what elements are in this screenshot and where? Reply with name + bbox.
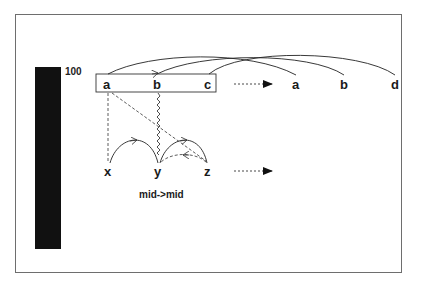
output-node-d: d	[391, 77, 399, 92]
node-c: c	[204, 77, 211, 92]
node-x: x	[104, 164, 112, 179]
node-a: a	[103, 77, 111, 92]
output-node-b: b	[340, 77, 348, 92]
node-z: z	[204, 164, 211, 179]
b-to-y-wavy	[157, 93, 160, 155]
output-node-a: a	[292, 77, 300, 92]
node-y: y	[154, 164, 162, 179]
diagram-canvas: a b c a b d x y z mid->mid	[0, 0, 432, 287]
node-b: b	[153, 77, 161, 92]
caption: mid->mid	[139, 189, 184, 200]
top-arcs	[108, 55, 395, 75]
